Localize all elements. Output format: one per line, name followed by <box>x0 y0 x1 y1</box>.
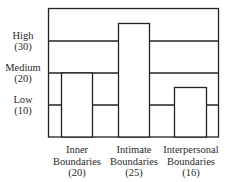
y-tick-high: High (30) <box>0 30 46 52</box>
y-tick-value: (10) <box>0 105 46 116</box>
x-label-value: (16) <box>158 167 224 179</box>
y-tick-low: Low (10) <box>0 94 46 116</box>
x-label-line: Boundaries <box>158 156 224 168</box>
y-tick-label: Low <box>0 94 46 105</box>
x-label-line: Interpersonal <box>158 144 224 156</box>
y-tick-label: High <box>0 30 46 41</box>
bar-inner-boundaries <box>62 73 93 137</box>
y-tick-value: (20) <box>0 73 46 84</box>
x-label-interpersonal-boundaries: Interpersonal Boundaries (16) <box>158 144 224 179</box>
bar-interpersonal-boundaries <box>175 88 207 138</box>
y-tick-label: Medium <box>0 62 46 73</box>
bar-intimate-boundaries <box>119 24 150 138</box>
y-tick-medium: Medium (20) <box>0 62 46 84</box>
y-tick-value: (30) <box>0 41 46 52</box>
